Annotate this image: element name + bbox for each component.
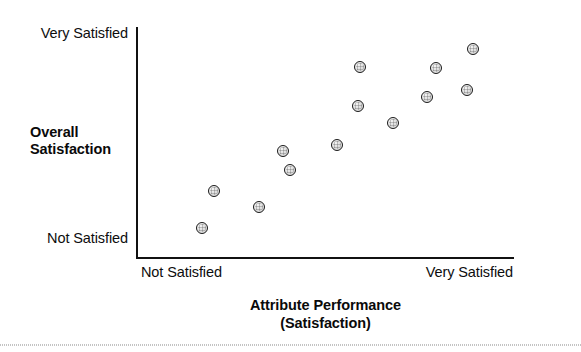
scatter-plot-area (137, 27, 514, 258)
scatter-point (352, 100, 364, 112)
scatter-point (421, 91, 433, 103)
x-axis-left-label: Not Satisfied (141, 264, 222, 280)
x-axis-title: Attribute Performance (Satisfaction) (137, 297, 514, 332)
y-axis-top-label: Very Satisfied (0, 25, 128, 41)
scatter-point (354, 61, 366, 73)
x-axis-title-line-1: Attribute Performance (137, 297, 514, 315)
scatter-point (253, 201, 265, 213)
scatter-point (430, 62, 442, 74)
scatter-point (331, 139, 343, 151)
scatter-point (461, 84, 473, 96)
y-axis-title: Overall Satisfaction (30, 124, 140, 158)
chart-canvas: Very Satisfied Not Satisfied Overall Sat… (0, 0, 581, 352)
scatter-point (196, 222, 208, 234)
scatter-point (208, 185, 220, 197)
y-axis-bottom-label: Not Satisfied (0, 230, 128, 246)
scatter-point (277, 145, 289, 157)
scatter-point (284, 164, 296, 176)
y-axis-title-line-2: Satisfaction (30, 141, 140, 158)
scatter-point (387, 117, 399, 129)
x-axis-right-label: Very Satisfied (426, 264, 513, 280)
page-bottom-rule (0, 344, 581, 346)
y-axis-title-line-1: Overall (30, 124, 140, 141)
scatter-point (467, 43, 479, 55)
x-axis-title-line-2: (Satisfaction) (137, 315, 514, 333)
